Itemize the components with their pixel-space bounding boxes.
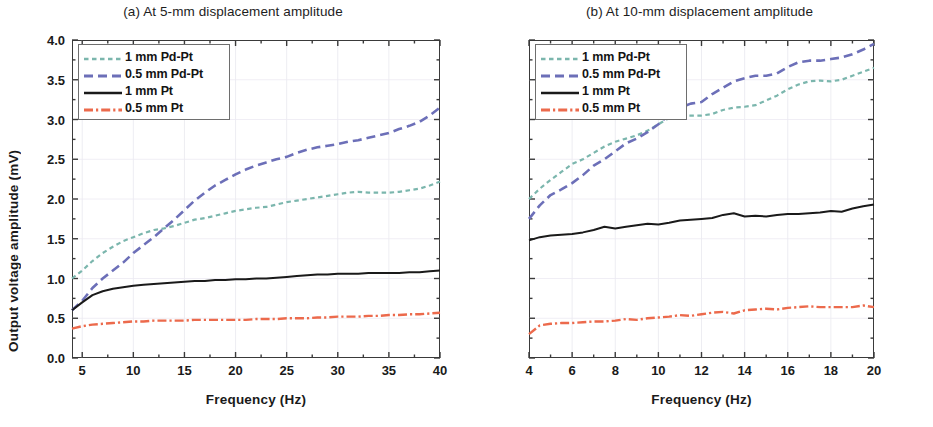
panel-b-title: (b) At 10-mm displacement amplitude bbox=[466, 4, 933, 19]
y-tick-label: 4.0 bbox=[47, 33, 65, 48]
series-line bbox=[72, 313, 440, 329]
y-tick-label: 3.0 bbox=[47, 112, 65, 127]
panel-a: (a) At 5-mm displacement amplitude Outpu… bbox=[0, 0, 466, 427]
panel-a-legend: 1 mm Pd-Pt0.5 mm Pd-Pt1 mm Pt0.5 mm Pt bbox=[78, 44, 230, 120]
panel-a-y-axis-label: Output voltage amplitude (mV) bbox=[6, 56, 21, 352]
x-tick-label: 35 bbox=[382, 363, 396, 378]
legend-item[interactable]: 0.5 mm Pt bbox=[83, 99, 223, 116]
x-tick-label: 8 bbox=[612, 363, 619, 378]
panel-b-x-tick-labels: 468101214161820 bbox=[529, 363, 874, 381]
panel-b-legend: 1 mm Pd-Pt0.5 mm Pd-Pt1 mm Pt0.5 mm Pt bbox=[535, 44, 687, 120]
series-line bbox=[72, 182, 440, 279]
y-tick-label: 3.5 bbox=[47, 72, 65, 87]
panel-a-x-tick-labels: 510152025303540 bbox=[72, 363, 440, 381]
legend-line-swatch bbox=[540, 85, 580, 97]
panel-a-plot-area: 1 mm Pd-Pt0.5 mm Pd-Pt1 mm Pt0.5 mm Pt bbox=[72, 40, 440, 358]
x-tick-label: 30 bbox=[331, 363, 345, 378]
x-tick-label: 10 bbox=[126, 363, 140, 378]
x-tick-label: 14 bbox=[737, 363, 751, 378]
legend-item-label: 0.5 mm Pt bbox=[125, 101, 183, 115]
legend-item-label: 1 mm Pt bbox=[582, 84, 630, 98]
legend-item[interactable]: 1 mm Pd-Pt bbox=[83, 48, 223, 65]
legend-line-swatch bbox=[83, 68, 123, 80]
legend-line-swatch bbox=[83, 51, 123, 63]
x-tick-label: 4 bbox=[525, 363, 532, 378]
y-tick-label: 2.0 bbox=[47, 192, 65, 207]
y-tick-label: 0.5 bbox=[47, 311, 65, 326]
y-tick-label: 2.5 bbox=[47, 152, 65, 167]
panel-a-title: (a) At 5-mm displacement amplitude bbox=[0, 4, 466, 19]
legend-item-label: 0.5 mm Pt bbox=[582, 101, 640, 115]
x-tick-label: 10 bbox=[651, 363, 665, 378]
x-tick-label: 16 bbox=[781, 363, 795, 378]
legend-item-label: 1 mm Pt bbox=[125, 84, 173, 98]
x-tick-label: 12 bbox=[694, 363, 708, 378]
panel-a-x-axis-label: Frequency (Hz) bbox=[72, 392, 440, 407]
series-line bbox=[72, 271, 440, 311]
x-tick-label: 18 bbox=[824, 363, 838, 378]
y-tick-label: 1.5 bbox=[47, 231, 65, 246]
legend-item[interactable]: 0.5 mm Pt bbox=[540, 99, 680, 116]
y-tick-label: 1.0 bbox=[47, 271, 65, 286]
legend-line-swatch bbox=[540, 68, 580, 80]
panel-b-x-axis-label: Frequency (Hz) bbox=[529, 392, 874, 407]
legend-item[interactable]: 1 mm Pt bbox=[83, 82, 223, 99]
legend-line-swatch bbox=[540, 102, 580, 114]
legend-item[interactable]: 1 mm Pd-Pt bbox=[540, 48, 680, 65]
y-tick-label: 0.0 bbox=[47, 351, 65, 366]
legend-line-swatch bbox=[83, 85, 123, 97]
legend-line-swatch bbox=[83, 102, 123, 114]
legend-item[interactable]: 0.5 mm Pd-Pt bbox=[540, 65, 680, 82]
figure-root: (a) At 5-mm displacement amplitude Outpu… bbox=[0, 0, 933, 427]
legend-item-label: 1 mm Pd-Pt bbox=[125, 50, 193, 64]
panel-b: (b) At 10-mm displacement amplitude Outp… bbox=[466, 0, 933, 427]
legend-item[interactable]: 1 mm Pt bbox=[540, 82, 680, 99]
x-tick-label: 15 bbox=[177, 363, 191, 378]
legend-item-label: 0.5 mm Pd-Pt bbox=[125, 67, 203, 81]
legend-line-swatch bbox=[540, 51, 580, 63]
panel-a-y-tick-labels: 0.00.51.01.52.02.53.03.54.0 bbox=[20, 40, 65, 358]
x-tick-label: 40 bbox=[433, 363, 447, 378]
legend-item-label: 0.5 mm Pd-Pt bbox=[582, 67, 660, 81]
series-line bbox=[72, 108, 440, 311]
x-tick-label: 6 bbox=[569, 363, 576, 378]
legend-item-label: 1 mm Pd-Pt bbox=[582, 50, 650, 64]
x-tick-label: 20 bbox=[228, 363, 242, 378]
legend-item[interactable]: 0.5 mm Pd-Pt bbox=[83, 65, 223, 82]
x-tick-label: 20 bbox=[867, 363, 881, 378]
panel-b-plot-area: 1 mm Pd-Pt0.5 mm Pd-Pt1 mm Pt0.5 mm Pt bbox=[529, 40, 874, 358]
x-tick-label: 25 bbox=[279, 363, 293, 378]
x-tick-label: 5 bbox=[79, 363, 86, 378]
